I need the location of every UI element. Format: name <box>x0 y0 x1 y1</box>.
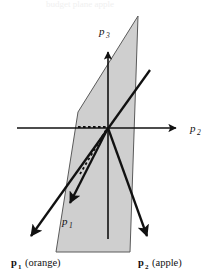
caption-p1-symbol: p <box>11 257 17 268</box>
p3-axis-label-subscript: 3 <box>105 31 110 40</box>
p1-axis-label-symbol: p <box>61 215 68 227</box>
cut-off-header-text: budget plane apple <box>46 0 114 9</box>
p2-axis-label-subscript: 2 <box>197 128 201 137</box>
figure-root: budget plane apple p 3 p 2 p 1 <box>0 0 214 275</box>
caption-p1-text: (orange) <box>25 257 61 269</box>
p2-axis-label: p 2 <box>189 122 201 137</box>
caption-p2-subscript: 2 <box>145 263 149 271</box>
caption-p2-text: (apple) <box>152 257 182 269</box>
caption-p1-subscript: 1 <box>18 263 22 271</box>
p1-axis-label-subscript: 1 <box>69 221 73 230</box>
budget-plane <box>56 16 138 252</box>
caption-p2-apple: p 2 (apple) <box>138 257 182 271</box>
caption-p2-symbol: p <box>138 257 144 268</box>
p3-axis-label: p 3 <box>98 25 110 40</box>
budget-plane-diagram: budget plane apple p 3 p 2 p 1 <box>0 0 214 275</box>
p3-axis-label-symbol: p <box>98 25 105 37</box>
p2-axis-label-symbol: p <box>189 122 196 134</box>
caption-p1-orange: p 1 (orange) <box>11 257 61 271</box>
